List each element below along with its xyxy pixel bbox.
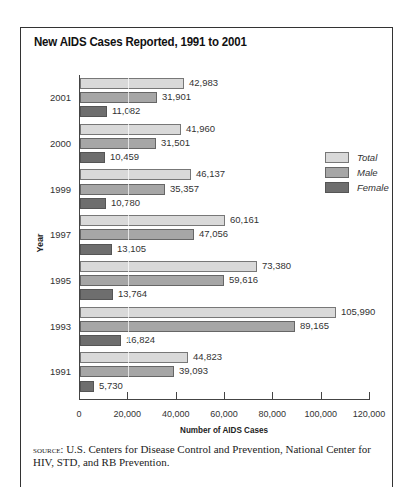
x-tick bbox=[224, 392, 225, 400]
source-note: source: U.S. Centers for Disease Control… bbox=[33, 443, 388, 469]
value-label: 73,380 bbox=[262, 260, 291, 271]
legend-label-female: Female bbox=[357, 182, 389, 193]
x-tick bbox=[176, 392, 177, 400]
bar-female bbox=[80, 106, 107, 117]
bar-female bbox=[80, 335, 121, 346]
bar-total bbox=[80, 169, 191, 180]
legend-item-male: Male bbox=[325, 167, 378, 178]
value-label: 31,501 bbox=[161, 137, 190, 148]
value-label: 10,780 bbox=[111, 197, 140, 208]
source-prefix: source: bbox=[33, 444, 63, 455]
year-label: 2000 bbox=[50, 138, 71, 149]
legend-item-total: Total bbox=[325, 152, 377, 163]
x-tick-label: 20,000 bbox=[114, 409, 142, 419]
x-tick bbox=[369, 392, 370, 400]
value-label: 47,056 bbox=[199, 228, 228, 239]
bar-total bbox=[80, 307, 336, 318]
bar-male bbox=[80, 92, 157, 103]
bar-total bbox=[80, 261, 257, 272]
x-tick-label: 0 bbox=[76, 409, 81, 419]
year-label: 2001 bbox=[50, 92, 71, 103]
value-label: 35,357 bbox=[170, 183, 199, 194]
legend-label-total: Total bbox=[357, 152, 377, 163]
legend-swatch-female bbox=[325, 182, 349, 193]
bar-female bbox=[80, 244, 112, 255]
value-label: 31,901 bbox=[162, 91, 191, 102]
bar-total bbox=[80, 215, 225, 226]
value-label: 13,105 bbox=[117, 243, 146, 254]
x-tick-label: 120,000 bbox=[353, 409, 386, 419]
value-label: 46,137 bbox=[196, 168, 225, 179]
value-label: 89,165 bbox=[300, 320, 329, 331]
value-label: 11,082 bbox=[112, 105, 140, 116]
x-tick bbox=[321, 392, 322, 400]
source-text: U.S. Centers for Disease Control and Pre… bbox=[33, 443, 371, 468]
bar-total bbox=[80, 124, 181, 135]
x-tick bbox=[272, 392, 273, 400]
bar-total bbox=[80, 352, 188, 363]
bar-female bbox=[80, 381, 94, 392]
bar-male bbox=[80, 184, 165, 195]
x-tick-label: 80,000 bbox=[259, 409, 287, 419]
x-tick-label: 100,000 bbox=[304, 409, 337, 419]
year-label: 1999 bbox=[50, 184, 71, 195]
chart-title: New AIDS Cases Reported, 1991 to 2001 bbox=[34, 35, 247, 49]
bar-total bbox=[80, 78, 184, 89]
x-tick-label: 40,000 bbox=[162, 409, 190, 419]
legend-swatch-total bbox=[325, 152, 349, 163]
legend-label-male: Male bbox=[357, 167, 378, 178]
bar-female bbox=[80, 198, 106, 209]
x-tick bbox=[79, 392, 80, 400]
value-label: 41,960 bbox=[186, 123, 215, 134]
year-label: 1991 bbox=[50, 366, 71, 377]
x-axis-label: Number of AIDS Cases bbox=[180, 425, 268, 435]
bar-male bbox=[80, 366, 174, 377]
x-tick bbox=[127, 392, 128, 400]
value-label: 105,990 bbox=[341, 306, 375, 317]
value-label: 59,616 bbox=[229, 274, 258, 285]
year-label: 1993 bbox=[50, 321, 71, 332]
bar-female bbox=[80, 152, 105, 163]
legend-swatch-male bbox=[325, 167, 349, 178]
x-tick-label: 60,000 bbox=[210, 409, 238, 419]
value-label: 13,764 bbox=[118, 288, 147, 299]
value-label: 16,824 bbox=[126, 334, 155, 345]
year-label: 1997 bbox=[50, 229, 71, 240]
bar-male bbox=[80, 229, 194, 240]
gridline bbox=[128, 78, 129, 388]
y-axis-label: Year bbox=[35, 233, 45, 252]
legend-item-female: Female bbox=[325, 182, 389, 193]
value-label: 42,983 bbox=[189, 77, 218, 88]
value-label: 5,730 bbox=[99, 380, 123, 391]
bar-female bbox=[80, 289, 113, 300]
value-label: 60,161 bbox=[230, 214, 259, 225]
year-label: 1995 bbox=[50, 275, 71, 286]
bar-male bbox=[80, 321, 295, 332]
value-label: 44,823 bbox=[193, 351, 222, 362]
value-label: 10,459 bbox=[110, 151, 139, 162]
bar-male bbox=[80, 138, 156, 149]
bar-male bbox=[80, 275, 224, 286]
value-label: 39,093 bbox=[179, 365, 208, 376]
